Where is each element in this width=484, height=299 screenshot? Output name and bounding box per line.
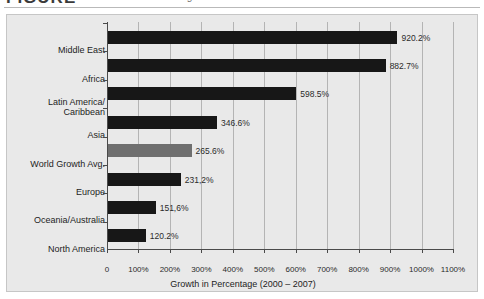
x-axis-tick [107,249,108,253]
y-axis-tick [103,137,108,138]
y-axis-tick [103,108,108,109]
gridline [138,22,139,249]
category-axis-labels: Middle EastAfricaLatin America/Caribbean… [15,36,105,270]
bar [108,144,192,157]
category-label: Asia [87,130,105,140]
y-axis-tick [103,165,108,166]
x-axis-tick [390,249,391,253]
category-label: Africa [82,74,105,84]
x-axis-tick-label: 500% [254,265,274,274]
plot-area: 920.2%882.7%598.5%346.6%265.6%231,2%151,… [107,22,453,256]
bar-value-label: 265.6% [196,146,225,156]
gridline [264,22,265,249]
gridline [390,22,391,249]
y-axis-tick [103,23,108,24]
bar [108,116,217,129]
x-axis-tick-label: 900% [380,265,400,274]
bar [108,173,181,186]
gridline [170,22,171,249]
category-label: North America [48,244,105,254]
figure-caption-strip: FIGURE Internet growth [0,0,484,9]
x-axis-tick-label: 100% [128,265,148,274]
caption-divider [4,7,480,8]
x-axis-line [107,249,454,250]
bar [108,31,397,44]
x-axis-tick-label: 300% [191,265,211,274]
x-axis-tick [233,249,234,253]
bar-value-label: 598.5% [300,89,329,99]
gridline [296,22,297,249]
bar-value-label: 231,2% [185,175,214,185]
x-axis-tick-label: 0 [105,265,109,274]
x-axis-tick [296,249,297,253]
gridline [422,22,423,249]
bar-value-label: 151,6% [160,203,189,213]
y-axis-tick [103,80,108,81]
bar-value-label: 346.6% [221,118,250,128]
category-label: World Growth Avg. [30,159,105,169]
y-axis-line [107,22,108,249]
x-axis-tick [422,249,423,253]
bar [108,59,386,72]
x-axis-tick-label: 1000% [409,265,434,274]
bar-value-label: 120.2% [150,231,179,241]
chart-panel: Middle EastAfricaLatin America/Caribbean… [6,14,478,292]
gridline [453,22,454,249]
gridline [233,22,234,249]
bar [108,229,146,242]
figure-container: FIGURE Internet growth Middle EastAfrica… [0,0,484,299]
x-axis-tick-label: 700% [317,265,337,274]
bar-value-label: 920.2% [401,33,430,43]
x-axis-tick [170,249,171,253]
gridline [327,22,328,249]
category-label: Latin America/Caribbean [48,97,105,117]
x-axis-tick [264,249,265,253]
bar [108,87,296,100]
figure-caption-subtitle: Internet growth [150,0,217,2]
x-axis-tick-label: 600% [285,265,305,274]
y-axis-tick [103,51,108,52]
x-axis-tick [201,249,202,253]
x-axis-tick [453,249,454,253]
x-axis-tick [359,249,360,253]
x-axis-tick-label: 1100% [441,265,465,274]
gridline [359,22,360,249]
x-axis-tick-label: 800% [348,265,368,274]
gridline [201,22,202,249]
x-axis-title: Growth in Percentage (2000 – 2007) [7,279,479,289]
bar [108,201,156,214]
y-axis-tick [103,193,108,194]
x-axis-tick [327,249,328,253]
x-axis-tick [138,249,139,253]
category-label: Middle East [58,45,105,55]
category-label: Europe [76,187,105,197]
y-axis-tick [103,222,108,223]
category-label: Oceania/Australia [34,215,105,225]
x-axis-tick-label: 200% [160,265,180,274]
x-axis-tick-label: 400% [223,265,243,274]
bar-value-label: 882.7% [390,61,419,71]
